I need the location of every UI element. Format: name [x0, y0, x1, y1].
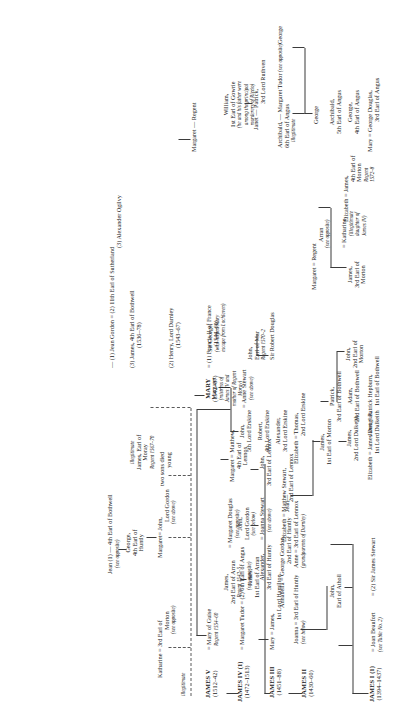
person-jean-gordon-marriages: — (1) Jean Gordon = (2) 11th Earl of Sut…: [108, 195, 121, 368]
rule: [250, 525, 258, 526]
rule: [352, 544, 353, 694]
rule-dashed: [190, 408, 191, 696]
rule: [196, 410, 197, 636]
person-james-earl-of-moray: illegitimate James, Earl of Moray Regent…: [128, 435, 154, 470]
person-james-iv: JAMES IV (1) (1472–1513): [236, 662, 250, 703]
person-patrick-bothwell: Patrick, 3rd Earl of Bothwell: [328, 371, 341, 422]
person-sir-robert-douglas: Sir Robert Douglas: [268, 312, 275, 360]
rule: [338, 645, 352, 646]
genealogy-sheet: JAMES I (1) (1394–1437) = Joan Beaufort …: [0, 0, 419, 708]
rule: [264, 693, 270, 694]
person-margaret-regent-arran: Margaret = Regent Arran (see opposite): [310, 220, 330, 290]
person-james-1st-morton: James, 1st Earl of Morton: [318, 419, 331, 465]
rule: [194, 395, 204, 396]
rule: [220, 459, 228, 460]
rule: [146, 537, 156, 538]
rule: [244, 103, 252, 104]
person-margaret-mistress: Margaret (mistress of James IV and mothe…: [210, 371, 243, 406]
rule: [240, 579, 246, 580]
person-katharine-morton: Katharine = 3rd Earl of Morton (see oppo…: [156, 606, 176, 678]
person-john-5th-erskine: John, 5th Lord Erskine: [238, 410, 251, 452]
person-margaret-gordon: Margaret= John, Lord Gordon (see above): [156, 490, 176, 558]
person-anne-lennox: Anne = 3rd Earl of Lennox (grandparents …: [292, 501, 305, 568]
person-john-2nd-morton: John, 2nd Earl of Morton: [344, 340, 364, 368]
person-alexander-erskine: Alexander, 3rd Lord Erskine: [274, 410, 287, 452]
person-george-4th-huntly: George, 4th Earl of Huntly: [124, 530, 144, 556]
rule: [312, 440, 313, 496]
rule: [118, 549, 126, 550]
person-elizabeth-matthew-lennox: Elizabeth = Matthew Stewart, 2nd Earl of…: [280, 454, 293, 542]
person-joan-beaufort: = Joan Beaufort (see Table No. 2): [369, 612, 382, 652]
rule: [178, 139, 190, 140]
rule-dashed: [150, 407, 190, 408]
rule: [336, 352, 337, 402]
rule: [256, 355, 268, 356]
person-earl-of-bothwell: (3) James, 4th Earl of Bothwell (1536–78…: [128, 290, 141, 368]
person-george-son: George: [312, 106, 319, 124]
person-joanna-stewart: = Joanna Stewart (see above): [258, 497, 271, 540]
person-elizabeth-4th-morton: Elizabeth = James, 4th Earl of Morton Re…: [342, 156, 375, 222]
rule: [352, 693, 368, 694]
label-two-sons-died-young: two sons died young: [158, 452, 171, 486]
rule: [196, 409, 230, 410]
rule: [196, 635, 206, 636]
rule: [320, 401, 328, 402]
rule: [304, 48, 305, 114]
person-janet-hepburn: Janet = Patrick Hepburn, 1st Earl of Bot…: [366, 356, 379, 436]
person-sir-george: Sir George, (who helped Mary escape from…: [206, 304, 226, 352]
person-archibald-6th-angus: Archibald, — Margaret Tudor (see opposit…: [276, 44, 296, 148]
person-adam-bothwell: Adam, 2nd Earl of Bothwell: [346, 370, 359, 422]
person-robert-erskine: Robert, 4th Lord Erskine: [256, 410, 269, 452]
person-james-v: JAMES V (1512–42): [204, 670, 218, 698]
person-joanna-huntly: Joanna = 3rd Earl of Huntly (see below): [292, 575, 305, 644]
rule: [344, 587, 352, 588]
person-william-gowrie: William, 1st Earl of Gowrie (he and his …: [222, 81, 255, 128]
person-elizabeth-erskine: Elizabeth = Thomas, 2nd Lord Erskine: [292, 393, 305, 464]
person-george-top: George: [276, 26, 283, 44]
person-james-2nd-dalkeith: James, 2nd Lord Dalkeith: [345, 415, 358, 461]
person-lord-darnley: (2) Henry, Lord Darnley (1543–67): [167, 308, 180, 368]
label-illegitimate: illegitimate: [180, 673, 185, 696]
person-mary-douglas-angus: Mary = George Douglas, 3rd Earl of Angus: [366, 78, 379, 152]
person-james-3rd-morton: James, 3rd Earl of Morton: [346, 261, 366, 288]
rule: [258, 639, 268, 640]
person-alexander-huntly: Alexander, 3rd Earl of Huntly: [258, 544, 271, 590]
rule: [338, 441, 346, 442]
rule: [250, 469, 258, 470]
person-james-2nd-arran: James, 2nd Earl of Arran Regent 1542–5: [222, 561, 242, 604]
rule: [226, 693, 238, 694]
person-john-lord-gordon: John, Lord Gordon (see below): [236, 508, 256, 540]
rule: [330, 267, 346, 268]
rule: [330, 544, 352, 545]
person-george-4th-angus: George, 4th Earl of Angus: [346, 90, 359, 134]
person-archibald-5th-angus: Archibald, 5th Earl of Angus: [328, 90, 341, 134]
chart-canvas: JAMES I (1) (1394–1437) = Joan Beaufort …: [0, 0, 419, 708]
rule: [288, 693, 302, 694]
rule: [318, 207, 330, 208]
rule: [256, 334, 257, 356]
person-john-atholl: John, Earl of Atholl: [328, 574, 341, 608]
person-james-i: JAMES I (1) (1394–1437): [368, 666, 382, 702]
person-sir-james-stewart: = (2) Sir James Stewart: [369, 538, 376, 596]
person-jean-gordon-bothwell: Jean (1) — 4th Earl of Bothwell (see opp…: [106, 494, 119, 574]
person-mary-of-guise: = Mary of Guise Regent 1554–60: [205, 609, 218, 650]
person-margaret-regent: Margaret — Regent: [190, 103, 197, 152]
rule: [326, 586, 327, 630]
